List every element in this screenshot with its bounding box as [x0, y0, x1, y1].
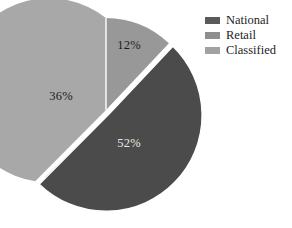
slice-label-classified: 12%: [117, 38, 141, 52]
legend-label-classified: Classified: [226, 43, 276, 57]
chart-legend: National Retail Classified: [205, 13, 291, 58]
legend-label-retail: Retail: [226, 28, 256, 42]
legend-swatch-classified: [205, 47, 220, 54]
slice-label-national: 52%: [117, 136, 141, 150]
legend-swatch-retail: [205, 32, 220, 39]
legend-item-classified[interactable]: Classified: [205, 43, 291, 57]
legend-label-national: National: [226, 13, 269, 27]
legend-swatch-national: [205, 17, 220, 24]
pie-chart: 12% 36% 52% National Retail Classified: [0, 0, 292, 228]
legend-item-retail[interactable]: Retail: [205, 28, 291, 42]
slice-label-retail: 36%: [49, 89, 73, 103]
legend-item-national[interactable]: National: [205, 13, 291, 27]
